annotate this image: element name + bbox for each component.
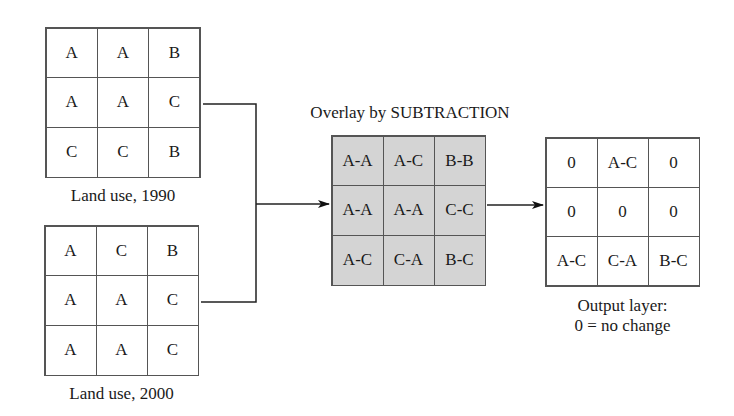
connector-2000 <box>201 204 256 302</box>
connector-lines <box>0 0 734 416</box>
connector-1990 <box>203 104 256 204</box>
